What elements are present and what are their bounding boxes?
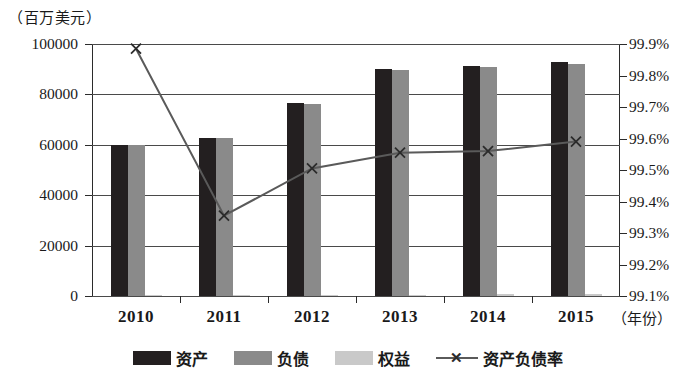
x-axis-tick-label: 2011 [180, 307, 268, 327]
legend-item-ratio[interactable]: ✕ 资产负债率 [436, 346, 563, 370]
x-axis-unit-label: （年份） [612, 307, 672, 328]
left-axis-tick-label: 60000 [0, 137, 78, 153]
right-axis-tick-label: 99.5% [629, 162, 669, 178]
legend-item-liabilities[interactable]: 负债 [234, 346, 309, 370]
legend-swatch-ratio: ✕ [436, 351, 478, 365]
right-axis-tick [620, 170, 627, 171]
left-axis-tick [85, 296, 92, 297]
right-axis-tick [620, 139, 627, 140]
left-axis-tick-label: 80000 [0, 86, 78, 102]
legend-swatch-assets [133, 351, 171, 365]
bar-liab [568, 64, 585, 296]
x-axis-tick-label: 2010 [92, 307, 180, 327]
x-axis-separator [180, 296, 181, 303]
bar-assets [287, 103, 304, 296]
right-axis-tick-label: 99.3% [629, 225, 669, 241]
legend-swatch-equity [335, 351, 373, 365]
bar-assets [551, 62, 568, 296]
legend-label-ratio: 资产负债率 [483, 346, 563, 370]
right-axis-tick [620, 76, 627, 77]
left-axis-tick [85, 246, 92, 247]
bar-liab [128, 145, 145, 296]
legend-label-liabilities: 负债 [277, 346, 309, 370]
bar-equity [145, 295, 162, 297]
bar-liab [216, 138, 233, 296]
x-axis-separator [444, 296, 445, 303]
right-axis-tick [620, 202, 627, 203]
right-axis-tick [620, 233, 627, 234]
bar-equity [585, 294, 602, 296]
right-axis-tick-label: 99.4% [629, 194, 669, 210]
x-axis-tick-label: 2015 [532, 307, 620, 327]
bar-assets [199, 138, 216, 296]
right-axis-tick-label: 99.9% [629, 36, 669, 52]
legend-swatch-liabilities [234, 351, 272, 365]
y-axis-unit-label: （百万美元） [8, 6, 101, 27]
x-marker-icon: ✕ [449, 351, 465, 365]
left-axis-tick-label: 100000 [0, 36, 78, 52]
right-axis-tick-label: 99.6% [629, 131, 669, 147]
left-axis-tick [85, 145, 92, 146]
right-axis-tick [620, 265, 627, 266]
x-axis-separator [532, 296, 533, 303]
bar-liab [392, 70, 409, 296]
bar-assets [463, 66, 480, 296]
asset-liability-chart: （百万美元） 020000400006000080000100000 99.1%… [0, 0, 695, 372]
right-axis-tick-label: 99.7% [629, 99, 669, 115]
bars-layer [92, 44, 620, 296]
bar-assets [111, 145, 128, 296]
x-axis-tick-label: 2014 [444, 307, 532, 327]
right-axis-tick [620, 107, 627, 108]
legend-label-equity: 权益 [378, 346, 410, 370]
legend-item-equity[interactable]: 权益 [335, 346, 410, 370]
left-axis-tick [85, 94, 92, 95]
left-axis-tick [85, 44, 92, 45]
right-axis-tick [620, 296, 627, 297]
x-axis-separator [268, 296, 269, 303]
bar-assets [375, 69, 392, 296]
left-axis-tick-label: 40000 [0, 187, 78, 203]
left-axis-tick-label: 0 [0, 288, 78, 304]
chart-legend: 资产 负债 权益 ✕ 资产负债率 [0, 346, 695, 370]
right-axis-tick-label: 99.2% [629, 257, 669, 273]
x-axis-separator [356, 296, 357, 303]
bar-equity [321, 295, 338, 297]
bar-equity [409, 295, 426, 297]
left-axis-tick-label: 20000 [0, 238, 78, 254]
right-axis-tick-label: 99.1% [629, 288, 669, 304]
x-axis-tick-label: 2012 [268, 307, 356, 327]
bar-equity [497, 294, 514, 296]
bar-liab [480, 67, 497, 296]
right-axis-tick-label: 99.8% [629, 68, 669, 84]
bar-liab [304, 104, 321, 296]
bar-equity [233, 295, 250, 297]
legend-item-assets[interactable]: 资产 [133, 346, 208, 370]
left-axis-tick [85, 195, 92, 196]
right-axis-tick [620, 44, 627, 45]
x-axis-tick-label: 2013 [356, 307, 444, 327]
legend-label-assets: 资产 [176, 346, 208, 370]
